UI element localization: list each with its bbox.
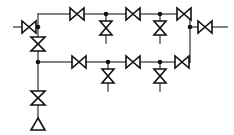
trunk-upper-valve-icon[interactable] [31,37,45,51]
junction-group [36,12,193,65]
junction-top-branch-1 [104,12,109,17]
top-valve-1-icon[interactable] [70,8,84,20]
trunk-lower-valve-icon[interactable] [31,91,45,105]
outlet-gate-valve-icon[interactable] [198,21,212,33]
junction-inlet-tee [36,25,41,30]
top-branch-valve-1-icon[interactable] [100,21,112,35]
pid-diagram-canvas [0,0,234,135]
pid-drawing [0,0,234,135]
junction-outlet-tee [188,25,193,30]
junction-bottom-tee [36,60,41,65]
pipe-network [13,14,228,119]
bottom-branch-valve-1-icon[interactable] [102,69,114,83]
bottom-branch-valve-2-icon[interactable] [154,69,166,83]
junction-bottom-branch-1 [106,60,111,65]
vent-group [31,118,45,130]
junction-bottom-branch-2 [158,60,163,65]
bottom-valve-3-icon[interactable] [175,56,189,68]
bottom-valve-2-icon[interactable] [126,56,140,68]
vertical-valve-group [31,21,166,105]
top-branch-valve-2-icon[interactable] [154,21,166,35]
bottom-valve-1-icon[interactable] [72,56,86,68]
vent-discharge-triangle-icon [31,118,45,130]
top-valve-3-icon[interactable] [177,8,191,20]
top-valve-2-icon[interactable] [126,8,140,20]
junction-top-branch-2 [158,12,163,17]
horizontal-valve-group [22,8,212,68]
inlet-gate-valve-icon[interactable] [22,21,36,33]
